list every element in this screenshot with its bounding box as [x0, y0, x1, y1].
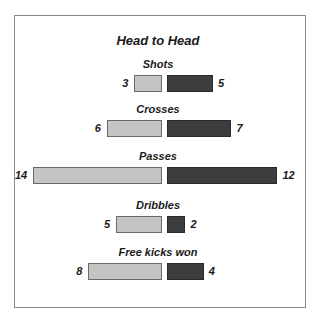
left-team-value: 8	[76, 265, 82, 277]
left-team-value: 3	[122, 77, 128, 89]
left-team-value: 5	[104, 218, 110, 230]
right-team-value: 4	[209, 265, 215, 277]
stat-label: Passes	[0, 150, 316, 162]
left-team-bar	[88, 263, 162, 280]
chart-title: Head to Head	[0, 33, 316, 48]
right-team-value: 7	[236, 122, 242, 134]
right-team-value: 5	[218, 77, 224, 89]
right-team-value: 12	[282, 169, 294, 181]
left-team-bar	[134, 75, 162, 92]
right-team-bar	[167, 120, 231, 137]
left-team-value: 14	[15, 169, 27, 181]
stat-label: Free kicks won	[0, 246, 316, 258]
right-team-bar	[167, 167, 277, 184]
stat-label: Crosses	[0, 103, 316, 115]
stat-label: Dribbles	[0, 199, 316, 211]
right-team-bar	[167, 263, 204, 280]
left-team-bar	[107, 120, 162, 137]
left-team-bar	[116, 216, 162, 233]
right-team-bar	[167, 75, 213, 92]
right-team-value: 2	[190, 218, 196, 230]
stat-label: Shots	[0, 58, 316, 70]
left-team-value: 6	[95, 122, 101, 134]
left-team-bar	[33, 167, 162, 184]
right-team-bar	[167, 216, 185, 233]
